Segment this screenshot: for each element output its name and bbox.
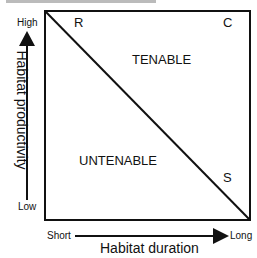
tenability-boundary-line (45, 11, 250, 220)
y-axis-title: Habitat productivity (14, 50, 30, 169)
untenable-region-label: UNTENABLE (79, 153, 157, 168)
diagram-graphics (0, 0, 257, 258)
y-axis-low-label: Low (18, 201, 36, 212)
x-axis-short-label: Short (47, 230, 71, 241)
corner-label-s: S (223, 170, 232, 185)
tenable-region-label: TENABLE (132, 52, 191, 67)
y-axis-arrowhead-icon (19, 31, 35, 46)
x-axis-title: Habitat duration (100, 240, 199, 256)
corner-label-r: R (74, 15, 83, 30)
x-axis-long-label: Long (230, 230, 252, 241)
y-axis-high-label: High (17, 17, 38, 28)
corner-label-c: C (223, 15, 232, 30)
cut-off-caption (6, 0, 156, 3)
x-axis-arrowhead-icon (213, 228, 229, 244)
